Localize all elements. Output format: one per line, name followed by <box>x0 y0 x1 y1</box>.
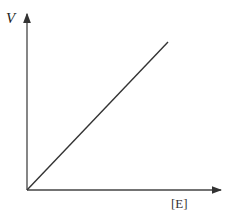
data-line <box>27 42 168 190</box>
y-axis-label: V <box>6 10 15 27</box>
chart-canvas <box>0 0 238 220</box>
x-axis-label: [E] <box>171 196 188 212</box>
